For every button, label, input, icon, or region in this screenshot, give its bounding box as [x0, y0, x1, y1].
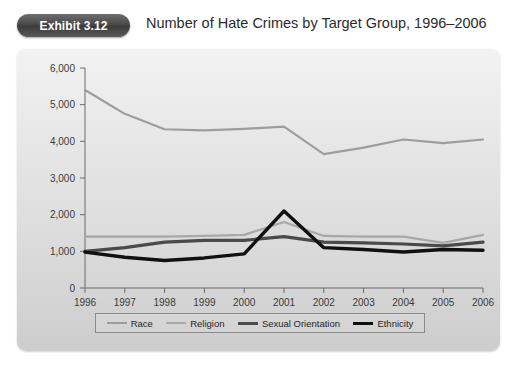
legend-item-race: Race — [107, 318, 153, 329]
series-line-race — [85, 90, 483, 154]
legend-swatch-icon — [353, 322, 373, 325]
legend-label: Religion — [190, 318, 224, 329]
x-tick-label: 1997 — [114, 297, 137, 308]
exhibit-badge: Exhibit 3.12 — [17, 14, 130, 37]
line-chart-svg: 01,0002,0003,0004,0005,0006,000 19961997… — [17, 48, 500, 351]
exhibit-figure: Exhibit 3.12 Number of Hate Crimes by Ta… — [0, 0, 517, 379]
y-axis-ticks: 01,0002,0003,0004,0005,0006,000 — [50, 63, 85, 294]
x-tick-label: 2006 — [472, 297, 495, 308]
y-tick-label: 5,000 — [50, 99, 75, 110]
y-tick-label: 4,000 — [50, 136, 75, 147]
series-line-religion — [85, 222, 483, 243]
legend-swatch-icon — [166, 322, 186, 324]
x-tick-label: 1996 — [74, 297, 97, 308]
data-series-group — [85, 90, 483, 261]
x-tick-label: 2003 — [352, 297, 375, 308]
x-tick-label: 2004 — [392, 297, 415, 308]
exhibit-badge-label: Exhibit 3.12 — [40, 19, 108, 33]
x-tick-label: 2002 — [313, 297, 336, 308]
exhibit-header: Exhibit 3.12 Number of Hate Crimes by Ta… — [0, 0, 517, 48]
x-tick-label: 2000 — [233, 297, 256, 308]
x-tick-label: 1999 — [193, 297, 216, 308]
x-tick-label: 1998 — [153, 297, 176, 308]
y-tick-label: 2,000 — [50, 209, 75, 220]
y-tick-label: 6,000 — [50, 63, 75, 74]
legend-label: Ethnicity — [377, 318, 413, 329]
chart-panel: 01,0002,0003,0004,0005,0006,000 19961997… — [17, 48, 500, 351]
legend-item-ethnicity: Ethnicity — [353, 318, 413, 329]
legend-item-religion: Religion — [166, 318, 224, 329]
exhibit-title: Number of Hate Crimes by Target Group, 1… — [146, 15, 487, 31]
plot-area: 01,0002,0003,0004,0005,0006,000 19961997… — [17, 48, 500, 351]
x-tick-label: 2005 — [432, 297, 455, 308]
legend-label: Race — [131, 318, 153, 329]
legend-label: Sexual Orientation — [262, 318, 340, 329]
y-tick-label: 3,000 — [50, 173, 75, 184]
chart-legend: RaceReligionSexual OrientationEthnicity — [95, 313, 425, 333]
legend-swatch-icon — [107, 322, 127, 324]
y-tick-label: 1,000 — [50, 246, 75, 257]
x-axis-ticks: 1996199719981999200020012002200320042005… — [74, 288, 495, 308]
x-tick-label: 2001 — [273, 297, 296, 308]
y-tick-label: 0 — [69, 283, 75, 294]
axis-lines — [85, 68, 483, 288]
legend-item-sexual-orientation: Sexual Orientation — [238, 318, 340, 329]
legend-swatch-icon — [238, 322, 258, 325]
